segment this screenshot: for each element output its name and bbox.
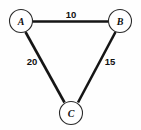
node-c-label: C	[68, 108, 75, 119]
edge-group	[26, 22, 116, 103]
edge-a-c	[26, 32, 65, 103]
node-b-label: B	[116, 16, 124, 27]
edge-weight-b-c: 15	[105, 56, 116, 67]
graph-canvas: A B C 10 20 15	[0, 0, 141, 130]
edge-b-c	[78, 32, 116, 103]
weighted-graph-diagram: A B C 10 20 15	[0, 0, 141, 130]
edge-weight-a-c: 20	[27, 56, 38, 67]
edge-weight-a-b: 10	[66, 9, 77, 20]
node-a-label: A	[17, 16, 25, 27]
